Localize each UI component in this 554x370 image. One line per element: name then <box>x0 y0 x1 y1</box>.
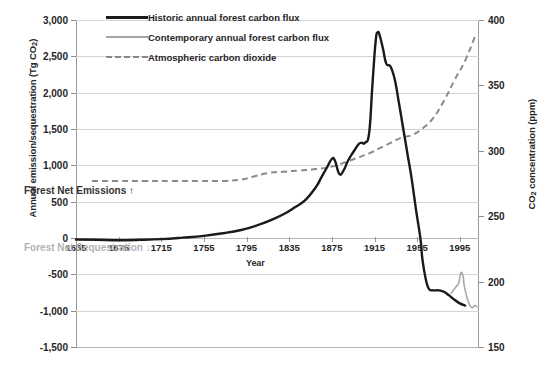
legend-swatch-co2-dashed-line-icon <box>104 51 148 63</box>
legend-item-historic: Historic annual forest carbon flux <box>104 7 364 27</box>
y-axis-left-tick-label: 2,000 <box>43 87 68 98</box>
y-axis-right-title-suffix: concentration (ppm) <box>526 99 537 191</box>
y-axis-right-tick <box>479 216 484 217</box>
y-axis-left-tick-label: 3,000 <box>43 15 68 26</box>
y-axis-left-tick-label: -1,000 <box>40 305 68 316</box>
y-axis-right-tick <box>479 151 484 152</box>
series-contemporary-forest-carbon-flux <box>451 272 477 307</box>
y-axis-right-tick <box>479 20 484 21</box>
y-axis-right-tick-label: 400 <box>488 15 505 26</box>
legend-swatch-historic-line-icon <box>104 11 148 23</box>
y-axis-left-tick-label: 2,500 <box>43 51 68 62</box>
y-axis-right-tick-label: 300 <box>488 145 505 156</box>
legend-item-co2: Atmospheric carbon dioxide <box>104 47 364 67</box>
y-axis-right-title-subscript: 2 <box>529 191 538 195</box>
legend-swatch-contemporary-line-icon <box>104 31 148 43</box>
y-axis-right-tick-label: 350 <box>488 80 505 91</box>
annotation-forest-net-sequestration: Forest Net Sequestration ↓ <box>24 242 151 253</box>
y-axis-left-tick-label: 1,000 <box>43 160 68 171</box>
y-axis-left-title: Annual emission/sequestration (Tg CO2) <box>27 23 39 233</box>
y-axis-left-title-subscript: 2 <box>30 42 39 46</box>
y-axis-right-title: CO2 concentration (ppm) <box>526 74 538 234</box>
gridline <box>76 347 479 348</box>
legend-label-co2: Atmospheric carbon dioxide <box>148 52 276 63</box>
y-axis-right-tick <box>479 347 484 348</box>
y-axis-right-tick <box>479 85 484 86</box>
annotation-forest-net-emissions: Forest Net Emissions ↑ <box>24 185 134 196</box>
y-axis-right-tick-label: 200 <box>488 276 505 287</box>
carbon-flux-chart: Annual emission/sequestration (Tg CO2) C… <box>0 0 554 370</box>
legend-item-contemporary: Contemporary annual forest carbon flux <box>104 27 364 47</box>
y-axis-left-tick-label: -500 <box>48 269 68 280</box>
y-axis-left-tick-label: 500 <box>51 196 68 207</box>
y-axis-left-tick <box>71 347 76 348</box>
y-axis-right-tick-label: 150 <box>488 342 505 353</box>
y-axis-left-tick-label: -1,500 <box>40 342 68 353</box>
series-plot <box>76 20 479 347</box>
y-axis-right-tick-label: 250 <box>488 211 505 222</box>
plot-area: 3,0002,5002,0001,5001,0005000-500-1,000-… <box>76 20 479 347</box>
legend-label-historic: Historic annual forest carbon flux <box>148 12 300 23</box>
y-axis-right-tick <box>479 282 484 283</box>
y-axis-left-tick-label: 1,500 <box>43 124 68 135</box>
legend-label-contemporary: Contemporary annual forest carbon flux <box>148 32 329 43</box>
y-axis-left-title-suffix: ) <box>27 39 38 42</box>
series-historic-forest-carbon-flux <box>76 32 465 306</box>
y-axis-right-title-prefix: CO <box>526 195 537 209</box>
chart-legend: Historic annual forest carbon flux Conte… <box>104 7 364 67</box>
